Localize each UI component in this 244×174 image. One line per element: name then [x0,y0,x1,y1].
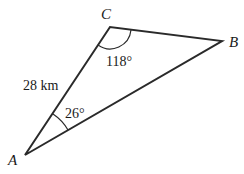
angle-label-c: 118° [106,54,132,69]
side-label-ac: 28 km [23,78,59,93]
triangle-diagram: C B A 28 km 118° 26° [0,0,244,174]
vertex-label-b: B [229,34,238,50]
vertex-label-c: C [101,6,112,22]
angle-label-a: 26° [65,106,85,121]
vertex-label-a: A [7,152,18,168]
